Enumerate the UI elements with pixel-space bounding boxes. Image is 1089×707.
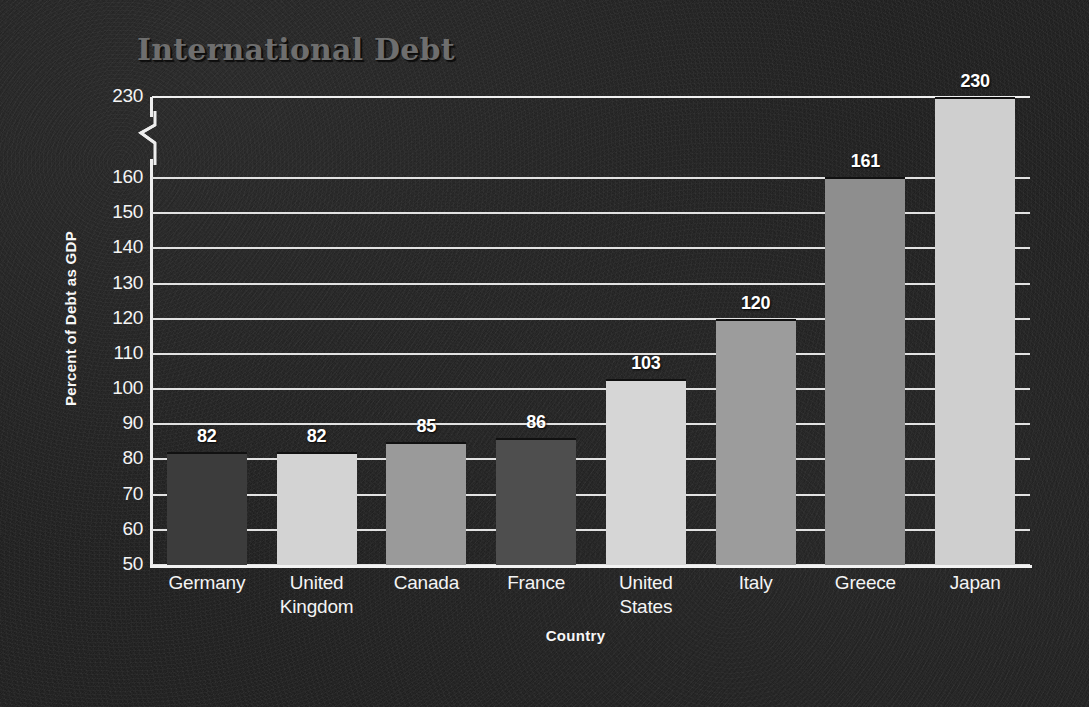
y-tick-label: 60 <box>85 518 143 540</box>
y-tick-label: 120 <box>85 307 143 329</box>
x-axis-title-label: Country <box>546 627 606 644</box>
bar-value-label: 103 <box>592 353 700 374</box>
y-tick-label: 160 <box>85 166 143 188</box>
y-axis-title: Percent of Debt as GDP <box>56 190 82 450</box>
y-tick-label: 70 <box>85 483 143 505</box>
bar-series: 82828586103120161230 <box>152 97 1030 565</box>
bar-value-label: 85 <box>372 416 480 437</box>
y-tick-label: 230 <box>85 85 143 107</box>
y-axis-title-label: Percent of Debt as GDP <box>62 197 79 441</box>
bar-germany[interactable] <box>167 452 247 565</box>
y-tick-label: 100 <box>85 377 143 399</box>
y-axis-tick-labels: 2301601501401301201101009080706050 <box>85 97 143 567</box>
chart-canvas: International Debt Percent of Debt as GD… <box>0 0 1089 707</box>
x-axis-line <box>150 565 1032 568</box>
bar-value-label: 82 <box>263 426 371 447</box>
bar-value-label: 86 <box>482 412 590 433</box>
bar-value-label: 161 <box>811 151 919 172</box>
x-tick-label-japan: Japan <box>908 571 1042 595</box>
plot-area: 82828586103120161230 <box>152 97 1030 565</box>
y-tick-label: 140 <box>85 236 143 258</box>
page-title: International Debt <box>137 32 455 67</box>
bar-france[interactable] <box>496 438 576 565</box>
x-axis-tick-labels: GermanyUnitedKingdomCanadaFranceUnitedSt… <box>152 571 1030 627</box>
bar-value-label: 230 <box>921 71 1029 92</box>
y-tick-label: 130 <box>85 272 143 294</box>
y-tick-label: 150 <box>85 201 143 223</box>
bar-united-states[interactable] <box>606 379 686 565</box>
bar-canada[interactable] <box>386 442 466 565</box>
bar-united-kingdom[interactable] <box>277 452 357 565</box>
y-tick-label: 90 <box>85 412 143 434</box>
bar-japan[interactable] <box>935 97 1015 565</box>
y-tick-label: 110 <box>85 342 143 364</box>
bar-value-label: 82 <box>153 426 261 447</box>
bar-value-label: 120 <box>702 293 810 314</box>
y-tick-label: 80 <box>85 447 143 469</box>
bar-italy[interactable] <box>716 319 796 565</box>
y-tick-label: 50 <box>85 553 143 575</box>
bar-greece[interactable] <box>825 177 905 565</box>
x-axis-title: Country <box>0 627 1089 644</box>
